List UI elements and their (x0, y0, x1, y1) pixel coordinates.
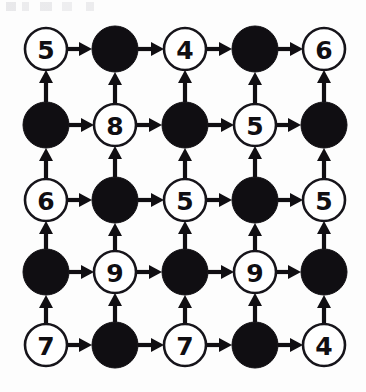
edge-horizontal (67, 193, 92, 207)
node-value[interactable]: 8 (94, 104, 136, 146)
edge-vertical (108, 293, 122, 322)
node-filled[interactable] (162, 102, 208, 148)
edge-vertical (108, 146, 122, 177)
edge-vertical (248, 146, 262, 177)
diagram-canvas: 5468565599774 (0, 0, 366, 392)
node-label: 7 (176, 332, 193, 361)
node-value[interactable]: 4 (303, 324, 345, 366)
edge-vertical (39, 70, 53, 102)
edge-horizontal (278, 193, 303, 207)
node-filled[interactable] (301, 102, 347, 148)
edge-vertical (248, 72, 262, 104)
edge-horizontal (206, 338, 232, 352)
node-value[interactable]: 4 (164, 28, 206, 70)
node-label: 9 (106, 259, 123, 288)
node-filled[interactable] (301, 249, 347, 295)
edge-vertical (248, 223, 262, 251)
node-filled[interactable] (23, 102, 69, 148)
edge-horizontal (276, 118, 301, 132)
edge-horizontal (278, 338, 303, 352)
node-value[interactable]: 5 (234, 104, 276, 146)
node-filled[interactable] (162, 249, 208, 295)
node-label: 5 (37, 36, 54, 65)
edge-vertical (178, 295, 192, 324)
node-filled[interactable] (92, 26, 138, 72)
edge-vertical (317, 70, 331, 102)
node-label: 7 (37, 332, 54, 361)
node-label: 6 (315, 36, 332, 65)
edge-horizontal (206, 193, 232, 207)
edge-horizontal (136, 118, 162, 132)
node-value[interactable]: 6 (25, 179, 67, 221)
node-value[interactable]: 5 (164, 179, 206, 221)
node-label: 4 (315, 332, 332, 361)
edge-vertical (248, 293, 262, 322)
edge-horizontal (69, 118, 94, 132)
edge-vertical (317, 148, 331, 179)
node-value[interactable]: 5 (303, 179, 345, 221)
node-filled[interactable] (232, 177, 278, 223)
edge-vertical (108, 223, 122, 251)
edge-vertical (178, 221, 192, 249)
node-label: 5 (246, 112, 263, 141)
edge-vertical (39, 221, 53, 249)
node-filled[interactable] (232, 322, 278, 368)
edge-vertical (317, 221, 331, 249)
edge-vertical (178, 148, 192, 179)
edge-vertical (317, 295, 331, 324)
node-label: 5 (176, 187, 193, 216)
edge-horizontal (278, 42, 303, 56)
edge-horizontal (208, 118, 234, 132)
node-label: 9 (246, 259, 263, 288)
edge-horizontal (208, 265, 234, 279)
node-value[interactable]: 5 (25, 28, 67, 70)
edge-horizontal (276, 265, 301, 279)
node-filled[interactable] (232, 26, 278, 72)
node-filled[interactable] (92, 177, 138, 223)
node-value[interactable]: 9 (94, 251, 136, 293)
node-label: 5 (315, 187, 332, 216)
edge-horizontal (138, 338, 164, 352)
node-label: 4 (176, 36, 193, 65)
edge-vertical (39, 295, 53, 324)
node-filled[interactable] (92, 322, 138, 368)
edge-vertical (39, 148, 53, 179)
node-label: 6 (37, 187, 54, 216)
node-value[interactable]: 9 (234, 251, 276, 293)
node-value[interactable]: 7 (25, 324, 67, 366)
edge-horizontal (136, 265, 162, 279)
edge-vertical (178, 70, 192, 102)
node-label: 8 (106, 112, 123, 141)
edge-horizontal (138, 193, 164, 207)
node-value[interactable]: 7 (164, 324, 206, 366)
edge-horizontal (69, 265, 94, 279)
edge-horizontal (206, 42, 232, 56)
edge-horizontal (67, 42, 92, 56)
edge-horizontal (138, 42, 164, 56)
edge-horizontal (67, 338, 92, 352)
node-filled[interactable] (23, 249, 69, 295)
grid-graph: 5468565599774 (0, 0, 366, 392)
edge-vertical (108, 72, 122, 104)
node-value[interactable]: 6 (303, 28, 345, 70)
